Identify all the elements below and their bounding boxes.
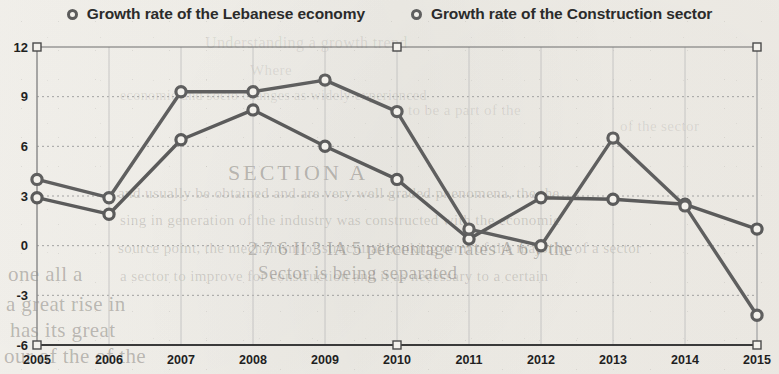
data-point-marker <box>176 87 186 97</box>
border-square-marker <box>753 341 761 349</box>
data-point-marker <box>320 75 330 85</box>
legend-label: Growth rate of the Lebanese economy <box>87 5 365 23</box>
y-axis-tick-labels: 129630-3-6 <box>14 40 28 353</box>
x-axis-tick-label: 2011 <box>455 353 482 367</box>
data-point-marker <box>752 310 762 320</box>
x-axis-tick-label: 2010 <box>383 353 411 367</box>
x-axis-tick-label: 2005 <box>23 353 51 367</box>
circle-marker-icon <box>411 9 422 20</box>
x-axis-tick-label: 2007 <box>167 353 195 367</box>
x-axis-tick-label: 2014 <box>671 353 699 367</box>
x-axis-tick-labels: 2005200620072008200920102011201220132014… <box>23 353 771 367</box>
data-point-marker <box>392 107 402 117</box>
data-point-marker <box>248 87 258 97</box>
y-axis-tick-label: 3 <box>21 189 28 204</box>
x-axis-tick-label: 2009 <box>311 353 339 367</box>
x-axis-tick-label: 2006 <box>95 353 123 367</box>
data-point-marker <box>464 224 474 234</box>
border-square-marker <box>393 341 401 349</box>
data-point-marker <box>608 133 618 143</box>
y-axis-tick-label: -6 <box>16 338 28 353</box>
data-point-marker <box>104 209 114 219</box>
legend-item-lebanese-economy[interactable]: Growth rate of the Lebanese economy <box>67 5 365 23</box>
y-axis-tick-label: 9 <box>21 89 28 104</box>
data-point-marker <box>392 174 402 184</box>
chart-plot-area: 129630-3-6 20052006200720082009201020112… <box>0 28 779 374</box>
x-axis-tick-label: 2013 <box>599 353 627 367</box>
data-point-marker <box>536 241 546 251</box>
chart-legend: Growth rate of the Lebanese economy Grow… <box>0 0 779 28</box>
y-axis-tick-label: 6 <box>21 139 28 154</box>
x-axis-tick-label: 2008 <box>239 353 267 367</box>
legend-label: Growth rate of the Construction sector <box>431 5 712 23</box>
data-point-marker <box>680 201 690 211</box>
data-point-marker <box>320 141 330 151</box>
data-point-marker <box>104 193 114 203</box>
x-axis-tick-label: 2015 <box>743 353 771 367</box>
data-point-marker <box>752 224 762 234</box>
y-axis-tick-label: 12 <box>14 40 28 55</box>
data-point-marker <box>536 193 546 203</box>
legend-item-construction-sector[interactable]: Growth rate of the Construction sector <box>411 5 712 23</box>
border-square-marker <box>753 43 761 51</box>
border-square-marker <box>33 341 41 349</box>
circle-marker-icon <box>67 9 78 20</box>
line-chart-svg: 129630-3-6 20052006200720082009201020112… <box>0 28 779 374</box>
border-square-marker <box>33 43 41 51</box>
gridlines-group <box>37 47 757 345</box>
data-point-marker <box>176 135 186 145</box>
data-point-marker <box>608 194 618 204</box>
x-axis-tick-label: 2012 <box>527 353 555 367</box>
data-point-marker <box>248 105 258 115</box>
data-point-marker <box>32 193 42 203</box>
y-axis-tick-label: -3 <box>16 288 28 303</box>
border-square-marker <box>393 43 401 51</box>
data-point-marker <box>32 174 42 184</box>
y-axis-tick-label: 0 <box>21 238 28 253</box>
